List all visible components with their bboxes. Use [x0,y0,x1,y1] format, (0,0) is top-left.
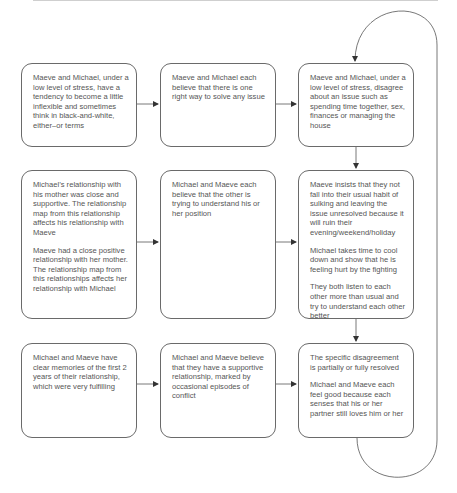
box-text: They both listen to each other more than… [310,282,406,320]
box-resolved-feel-good: The specific disagreement is partially o… [298,343,414,438]
box-text: Maeve and Michael, under a low level of … [310,73,406,131]
box-stress-inflexible: Maeve and Michael, under a low level of … [21,63,137,147]
box-text: Michael takes time to cool down and show… [310,246,406,275]
box-text: Michael and Maeve each believe that the … [172,180,268,218]
box-text: Michael and Maeve each feel good because… [310,380,406,418]
box-disagree-issue: Maeve and Michael, under a low level of … [298,63,414,147]
box-text: Maeve insists that they not fall into th… [310,180,406,238]
box-text: Maeve had a close positive relationship … [33,246,129,294]
box-trying-to-understand: Michael and Maeve each believe that the … [160,170,276,319]
box-supportive-relationship: Michael and Maeve believe that they have… [160,343,276,438]
box-one-right-way: Maeve and Michael each believe that ther… [160,63,276,147]
box-text: Michael and Maeve have clear memories of… [33,353,129,391]
box-early-memories: Michael and Maeve have clear memories of… [21,343,137,438]
box-text: The specific disagreement is partially o… [310,353,406,372]
box-resolve-behaviours: Maeve insists that they not fall into th… [298,170,414,319]
box-text: Maeve and Michael, under a low level of … [33,73,129,131]
box-parent-relationship-maps: Michael’s relationship with his mother w… [21,170,137,319]
box-text: Maeve and Michael each believe that ther… [172,73,268,102]
box-text: Michael and Maeve believe that they have… [172,353,268,401]
box-text: Michael’s relationship with his mother w… [33,180,129,238]
